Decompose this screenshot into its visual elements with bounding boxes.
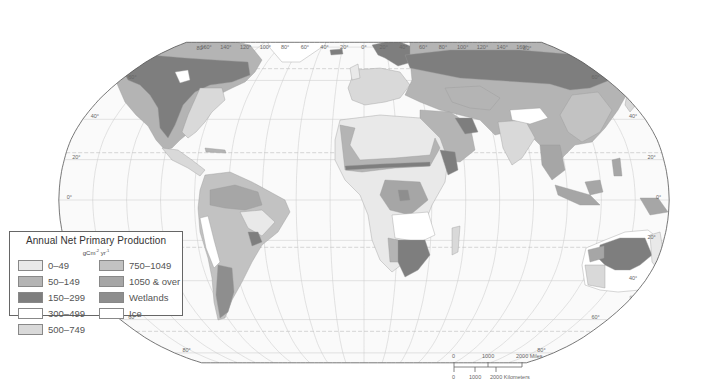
legend-label: 300–499: [48, 308, 85, 319]
land-tasmania: [630, 296, 638, 304]
legend-item: 750–1049: [99, 259, 171, 271]
legend-label: 1050 & over: [129, 276, 180, 287]
latitude-label-right: 80°: [537, 347, 545, 353]
legend: Annual Net Primary Production gCm-2 yr-1…: [9, 231, 183, 316]
scale-miles-0: 0: [452, 353, 455, 359]
legend-swatch: [99, 292, 124, 303]
longitude-label: 140°: [220, 44, 231, 50]
land-africa-savanna: [392, 212, 435, 242]
latitude-label-left: 0°: [67, 194, 72, 200]
longitude-label: 80°: [439, 44, 447, 50]
top-lat-label-left: 80°: [197, 45, 205, 51]
longitude-label: 0°: [361, 44, 366, 50]
legend-title: Annual Net Primary Production: [10, 235, 182, 246]
longitude-labels: 160°140°120°100°80°60°40°20°0°20°40°60°8…: [200, 44, 527, 50]
latitude-label-left: 60°: [128, 74, 136, 80]
latitude-label-right: 40°: [629, 275, 637, 281]
land-kamchatka: [640, 45, 660, 66]
legend-swatch: [18, 260, 43, 271]
land-philippines: [612, 158, 622, 176]
scale-bar-lines: [450, 360, 590, 374]
land-aus-west: [585, 265, 605, 288]
longitude-label: 80°: [281, 44, 289, 50]
legend-item: 0–49: [18, 259, 69, 271]
longitude-label: 40°: [399, 44, 407, 50]
longitude-label: 140°: [496, 44, 507, 50]
latitude-label-right: 20°: [647, 234, 655, 240]
unit-base: gCm: [83, 250, 96, 256]
land-namibia: [388, 238, 398, 262]
scale-km-0: 0: [452, 374, 455, 380]
longitude-label: 120°: [240, 44, 251, 50]
scale-miles-2000: 2000 Miles: [516, 353, 543, 359]
legend-swatch: [18, 292, 43, 303]
legend-unit: gCm-2 yr-1: [10, 248, 182, 256]
longitude-label: 20°: [340, 44, 348, 50]
unit-exp2: -1: [106, 248, 110, 253]
latitude-label-right: 0°: [656, 194, 661, 200]
longitude-label: 20°: [380, 44, 388, 50]
unit-mid: yr: [99, 250, 106, 256]
legend-item: Wetlands: [99, 291, 168, 303]
legend-label: 0–49: [48, 260, 69, 271]
longitude-label: 60°: [301, 44, 309, 50]
legend-item: 150–299: [18, 291, 85, 303]
legend-swatch: [18, 324, 43, 335]
legend-item: 300–499: [18, 307, 85, 319]
latitude-label-left: 80°: [182, 347, 190, 353]
legend-label: 500–749: [48, 324, 85, 335]
longitude-label: 100°: [457, 44, 468, 50]
longitude-label: 100°: [260, 44, 271, 50]
latitude-label-left: 20°: [72, 154, 80, 160]
latitude-label-left: 40°: [91, 113, 99, 119]
latitude-label-right: 60°: [591, 314, 599, 320]
legend-swatch: [99, 308, 124, 319]
longitude-label: 120°: [477, 44, 488, 50]
legend-swatch: [99, 276, 124, 287]
legend-swatch: [99, 260, 124, 271]
legend-label: 150–299: [48, 292, 85, 303]
legend-item: Ice: [99, 307, 142, 319]
legend-swatch: [18, 308, 43, 319]
legend-label: 50–149: [48, 276, 80, 287]
world-npp-map: 160°140°120°100°80°60°40°20°0°20°40°60°8…: [0, 0, 728, 392]
legend-swatch: [18, 276, 43, 287]
latitude-label-right: 60°: [591, 74, 599, 80]
land-new-zealand: [672, 285, 688, 310]
legend-item: 50–149: [18, 275, 80, 287]
longitude-label: 40°: [320, 44, 328, 50]
latitude-label-right: 40°: [629, 113, 637, 119]
latitude-label-right: 20°: [647, 154, 655, 160]
land-congo-core: [398, 190, 410, 201]
legend-label: Wetlands: [129, 292, 168, 303]
legend-label: 750–1049: [129, 260, 171, 271]
scale-miles-1000: 1000: [482, 353, 494, 359]
scale-km-2000: 2000 Kilometers: [490, 374, 530, 380]
legend-label: Ice: [129, 308, 142, 319]
scale-bar: 0 1000 2000 Miles 0 1000 2000 Kilometers: [450, 353, 590, 383]
scale-km-1000: 1000: [469, 374, 481, 380]
longitude-label: 60°: [419, 44, 427, 50]
legend-item: 500–749: [18, 323, 85, 335]
top-lat-label-right: 80°: [523, 45, 531, 51]
legend-item: 1050 & over: [99, 275, 180, 287]
